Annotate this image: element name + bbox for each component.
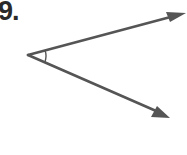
angle-arc-mark [45, 51, 46, 63]
lower-ray [28, 55, 170, 118]
arrowhead-icon [151, 106, 170, 118]
upper-ray [28, 12, 186, 55]
angle-figure [0, 0, 187, 155]
arrowhead-icon [166, 12, 186, 22]
